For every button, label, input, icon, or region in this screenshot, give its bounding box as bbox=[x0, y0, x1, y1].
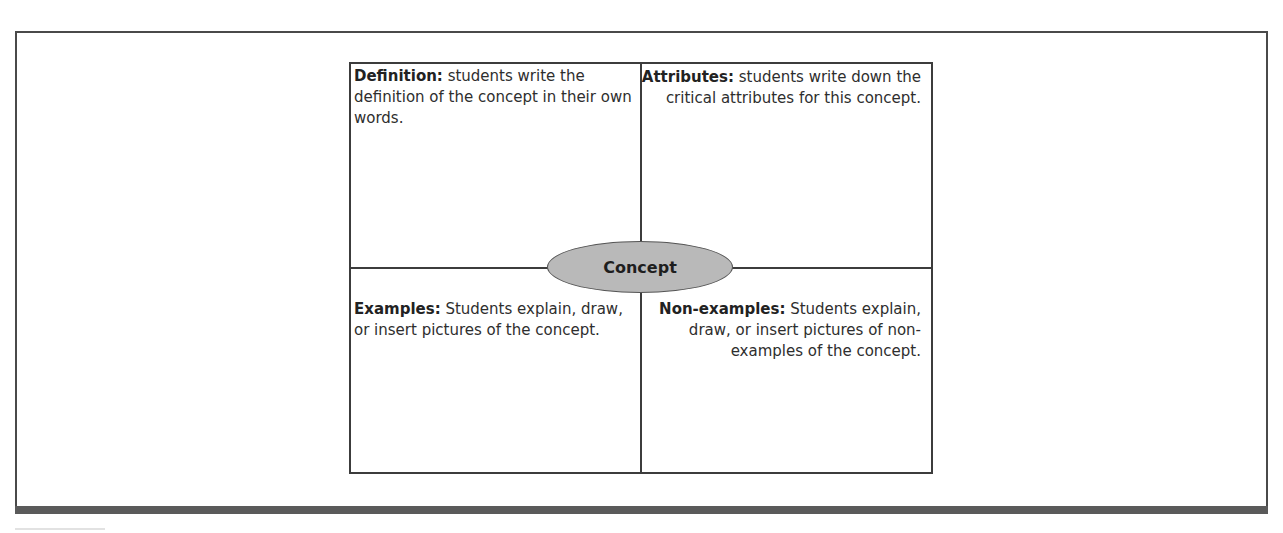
quadrant-title: Examples: bbox=[354, 300, 441, 318]
quadrant-title: Non-examples: bbox=[659, 300, 785, 318]
quadrant-title: Definition: bbox=[354, 67, 443, 85]
concept-label: Concept bbox=[603, 258, 677, 277]
quadrant-attributes: Attributes: students write down the crit… bbox=[641, 67, 921, 109]
quadrant-title: Attributes: bbox=[642, 68, 734, 86]
quadrant-non-examples: Non-examples: Students explain, draw, or… bbox=[639, 299, 921, 362]
quadrant-examples: Examples: Students explain, draw, or ins… bbox=[354, 299, 636, 341]
concept-oval: Concept bbox=[547, 241, 733, 293]
figure-bottom-bar bbox=[15, 506, 1268, 514]
footnote-rule bbox=[15, 528, 105, 530]
frayer-model-grid: Definition: students write the definitio… bbox=[349, 62, 933, 474]
quadrant-definition: Definition: students write the definitio… bbox=[354, 66, 634, 129]
